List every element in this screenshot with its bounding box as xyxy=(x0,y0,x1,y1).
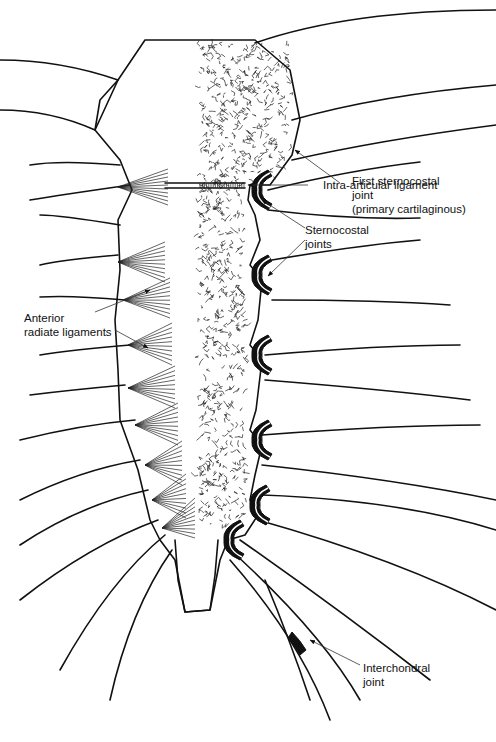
texture-stroke xyxy=(271,51,274,52)
texture-stroke xyxy=(205,336,209,337)
texture-stroke xyxy=(223,355,227,358)
radiate-ligament-fiber xyxy=(128,380,175,388)
texture-stroke xyxy=(195,86,201,88)
texture-stroke xyxy=(277,158,281,163)
texture-stroke xyxy=(232,165,236,169)
texture-stroke xyxy=(236,293,237,296)
texture-stroke xyxy=(277,92,279,95)
texture-stroke xyxy=(245,323,251,326)
texture-stroke xyxy=(212,135,214,137)
texture-stroke xyxy=(229,514,231,519)
texture-stroke xyxy=(222,244,223,249)
texture-stroke xyxy=(199,141,204,146)
texture-stroke xyxy=(199,358,203,365)
texture-stroke xyxy=(231,304,233,308)
texture-stroke xyxy=(219,386,223,388)
texture-stroke xyxy=(243,319,248,321)
texture-stroke xyxy=(220,485,221,487)
texture-stroke xyxy=(221,201,224,204)
texture-stroke xyxy=(202,419,203,421)
texture-stroke xyxy=(227,431,229,433)
intra-articular-ligament xyxy=(165,183,245,188)
texture-stroke xyxy=(216,315,217,319)
texture-stroke xyxy=(238,194,240,196)
texture-stroke xyxy=(239,307,244,313)
texture-stroke xyxy=(235,498,239,501)
texture-stroke xyxy=(227,261,232,264)
texture-stroke xyxy=(204,349,209,352)
texture-stroke xyxy=(264,109,269,110)
texture-stroke xyxy=(228,310,232,312)
texture-stroke xyxy=(220,279,224,283)
texture-stroke xyxy=(246,45,248,51)
texture-stroke xyxy=(269,90,273,94)
texture-stroke xyxy=(203,317,205,320)
texture-stroke xyxy=(227,267,228,271)
texture-stroke xyxy=(257,57,261,60)
texture-stroke xyxy=(220,393,223,396)
texture-stroke xyxy=(239,253,243,255)
texture-stroke xyxy=(203,114,205,121)
texture-stroke xyxy=(233,476,236,480)
texture-stroke xyxy=(236,160,240,164)
texture-stroke xyxy=(213,150,217,155)
texture-stroke xyxy=(206,58,210,61)
texture-stroke xyxy=(211,337,214,340)
texture-stroke xyxy=(237,190,240,195)
texture-stroke xyxy=(258,87,261,88)
texture-stroke xyxy=(196,198,202,202)
texture-stroke xyxy=(199,464,206,467)
sternum xyxy=(95,40,300,612)
texture-stroke xyxy=(226,440,227,445)
texture-stroke xyxy=(286,76,290,82)
sternocostal-joint xyxy=(250,485,270,525)
texture-stroke xyxy=(202,121,203,123)
texture-stroke xyxy=(214,428,216,432)
texture-stroke xyxy=(206,406,209,410)
texture-stroke xyxy=(239,81,244,82)
texture-stroke xyxy=(230,240,233,245)
texture-stroke xyxy=(241,214,244,217)
texture-stroke xyxy=(224,93,226,95)
texture-stroke xyxy=(270,168,273,170)
radiate-ligament-fiber xyxy=(128,388,175,403)
texture-stroke xyxy=(264,66,271,70)
texture-stroke xyxy=(207,87,209,92)
texture-stroke xyxy=(231,44,233,45)
texture-stroke xyxy=(231,501,238,505)
texture-stroke xyxy=(219,463,220,467)
texture-stroke xyxy=(230,112,233,117)
texture-stroke xyxy=(207,320,210,321)
texture-stroke xyxy=(199,415,203,418)
texture-stroke xyxy=(244,113,247,115)
texture-stroke xyxy=(257,163,262,167)
texture-stroke xyxy=(224,323,228,327)
texture-stroke xyxy=(236,323,240,326)
texture-stroke xyxy=(203,244,207,246)
texture-stroke xyxy=(235,124,238,126)
texture-stroke xyxy=(209,85,215,89)
texture-stroke xyxy=(232,309,235,310)
texture-stroke xyxy=(227,376,230,381)
texture-stroke xyxy=(199,488,203,489)
texture-stroke xyxy=(223,96,224,98)
texture-stroke xyxy=(227,198,232,202)
texture-stroke xyxy=(242,493,245,494)
texture-stroke xyxy=(242,108,245,111)
texture-stroke xyxy=(216,497,221,500)
texture-stroke xyxy=(211,256,212,259)
texture-stroke xyxy=(208,505,210,508)
texture-stroke xyxy=(223,286,227,287)
texture-stroke xyxy=(217,382,220,387)
texture-stroke xyxy=(266,85,269,87)
texture-stroke xyxy=(197,41,200,47)
texture-stroke xyxy=(194,234,199,237)
textured-sternal-surface xyxy=(191,39,293,528)
texture-stroke xyxy=(238,285,239,288)
texture-stroke xyxy=(199,103,205,106)
texture-stroke xyxy=(198,404,203,405)
texture-stroke xyxy=(235,102,237,105)
texture-stroke xyxy=(220,474,222,475)
texture-stroke xyxy=(237,365,241,369)
texture-stroke xyxy=(237,55,242,57)
